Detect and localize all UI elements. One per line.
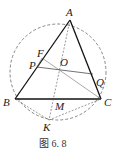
geometry-figure: A B C K O F P Q M 图 6. 8 [0,0,114,151]
label-A: A [65,6,73,18]
segment-BK [15,99,49,120]
figure-caption: 图 6. 8 [39,138,67,149]
label-F: F [36,47,44,59]
segment-PF [37,58,42,67]
label-M: M [54,100,65,112]
label-P: P [28,59,36,71]
label-C: C [104,96,112,108]
label-O: O [60,56,68,68]
label-Q: Q [96,76,104,88]
segment-PQ [37,67,93,74]
segment-FC [42,58,101,99]
label-K: K [42,121,51,133]
label-B: B [3,96,10,108]
